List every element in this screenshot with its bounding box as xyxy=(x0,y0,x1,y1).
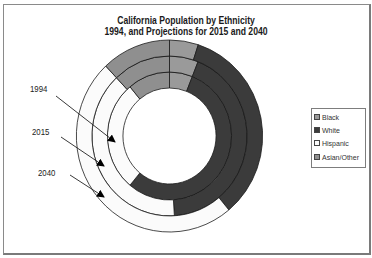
ring-label-2040: 2040 xyxy=(38,169,55,178)
legend-item-black: Black xyxy=(314,112,339,122)
chart-title-line-1: California Population by Ethnicity xyxy=(100,15,272,26)
legend-label-hispanic: Hispanic xyxy=(322,140,349,147)
legend-item-hispanic: Hispanic xyxy=(314,138,349,148)
legend-label-black: Black xyxy=(322,114,339,121)
legend-label-white: White xyxy=(322,127,340,134)
chart-title-line-2: 1994, and Projections for 2015 and 2040 xyxy=(100,26,272,37)
legend-swatch-white xyxy=(314,127,320,133)
legend-item-asian-other: Asian/Other xyxy=(314,152,359,162)
legend-item-white: White xyxy=(314,125,340,135)
legend-label-asian-other: Asian/Other xyxy=(322,154,359,161)
legend-swatch-hispanic xyxy=(314,140,320,146)
legend-swatch-asian-other xyxy=(314,154,320,160)
chart-legend: Black White Hispanic Asian/Other xyxy=(311,108,366,168)
ring-label-2015: 2015 xyxy=(32,128,49,137)
doughnut-rings xyxy=(76,40,262,232)
legend-swatch-black xyxy=(314,114,320,120)
ring-label-1994: 1994 xyxy=(30,85,47,94)
